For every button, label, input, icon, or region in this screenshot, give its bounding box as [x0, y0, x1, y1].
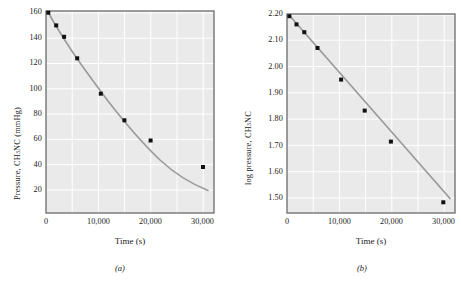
- data-point: [75, 56, 79, 60]
- panel-a-plot-background: [46, 11, 214, 213]
- data-point: [302, 30, 306, 34]
- data-point: [122, 118, 126, 122]
- data-point: [389, 140, 393, 144]
- panel-a-xtick-10000: 10,000: [76, 217, 121, 226]
- data-point: [287, 14, 291, 18]
- data-point: [295, 22, 299, 26]
- panel-a-xtick-0: 0: [38, 217, 54, 226]
- data-point: [149, 139, 153, 143]
- panel-b-xtick-30000: 30,000: [421, 217, 461, 226]
- data-point: [363, 109, 367, 113]
- panel-a: Pressure, CH3NC (mmHg) 20 40 60 80 100 1…: [0, 0, 230, 288]
- panel-b-x-axis-title: Time (s): [321, 236, 421, 246]
- panel-b-plot-background: [287, 14, 455, 213]
- panel-b: log pressure, CH3NC 1.50 1.60 1.70 1.80 …: [230, 0, 461, 288]
- panel-a-x-axis-title: Time (s): [80, 236, 180, 246]
- panel-a-xtick-20000: 20,000: [128, 217, 173, 226]
- data-point: [339, 78, 343, 82]
- data-point: [99, 92, 103, 96]
- data-point: [54, 23, 58, 27]
- data-point: [46, 11, 50, 15]
- panel-b-xtick-10000: 10,000: [317, 217, 362, 226]
- panel-b-caption: (b): [342, 263, 382, 273]
- panel-b-xtick-20000: 20,000: [369, 217, 414, 226]
- data-point: [316, 46, 320, 50]
- data-point: [201, 165, 205, 169]
- data-point: [441, 200, 445, 204]
- data-point: [62, 35, 66, 39]
- panel-a-xtick-30000: 30,000: [180, 217, 225, 226]
- panel-b-xtick-0: 0: [279, 217, 295, 226]
- panel-a-caption: (a): [100, 263, 140, 273]
- figure-container: Pressure, CH3NC (mmHg) 20 40 60 80 100 1…: [0, 0, 461, 288]
